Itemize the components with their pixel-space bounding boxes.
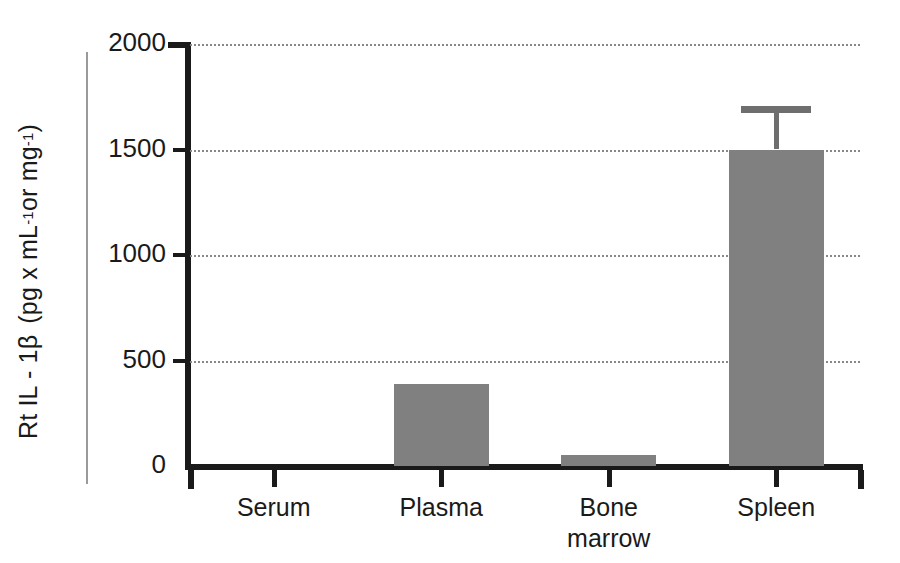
error-bar-line [774, 109, 779, 149]
y-axis-tick-label: 1000 [108, 238, 166, 269]
y-axis-tick [173, 359, 186, 363]
y-axis-title: Rt IL - 1β (pg x mL-1 or mg -1) [0, 0, 56, 563]
x-axis-tick [774, 470, 779, 487]
y-axis-tick [173, 148, 186, 152]
y-axis-tick-label: 0 [152, 449, 166, 480]
y-axis-analyte-label: Rt IL - 1β [14, 335, 43, 439]
bar-spleen[interactable] [729, 150, 824, 467]
x-axis-tick-label: Spleen [676, 492, 876, 523]
plot-area [190, 44, 860, 466]
x-axis-tick-label-line2: marrow [509, 523, 709, 554]
x-axis-tick [439, 470, 444, 487]
y-axis-units-close: ) [14, 124, 43, 133]
y-axis-units-mid: or mg [14, 146, 43, 211]
y-axis-units-open: (pg x mL [14, 225, 43, 324]
y-axis-title-rule [86, 52, 88, 484]
x-axis-tick [272, 470, 277, 487]
y-axis-tick-label: 2000 [108, 27, 166, 58]
y-axis-tick-label: 1500 [108, 133, 166, 164]
y-axis-tick [173, 253, 186, 257]
x-axis-tick-right-edge [858, 470, 864, 489]
x-axis-tick [607, 470, 612, 487]
error-bar-cap [741, 106, 811, 113]
y-axis-tick-label: 500 [123, 344, 166, 375]
bar-plasma[interactable] [394, 384, 489, 466]
y-axis-tick [168, 42, 186, 48]
x-axis-tick-left-edge [188, 470, 194, 489]
gridline [190, 44, 860, 46]
x-axis-tick-label-line1: Spleen [676, 492, 876, 523]
bar-bone[interactable] [561, 455, 656, 466]
figure-canvas: Rt IL - 1β (pg x mL-1 or mg -1) 05001000… [0, 0, 900, 563]
